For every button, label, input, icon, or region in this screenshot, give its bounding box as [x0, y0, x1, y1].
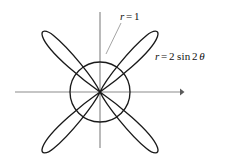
- rose-label-angle: θ: [199, 50, 205, 62]
- circle-label-operator: =: [124, 10, 133, 22]
- circle-label-leader-line: [106, 23, 121, 54]
- label-circle-r-equals-1: r=1: [120, 11, 140, 22]
- polar-plot-canvas: [0, 0, 226, 157]
- rose-label-function: sin: [175, 50, 191, 62]
- label-rose-equation: r=2sin2θ: [155, 51, 205, 62]
- circle-label-value: 1: [134, 10, 140, 22]
- x-axis-arrowhead: [180, 88, 185, 95]
- rose-label-amplitude: 2: [169, 50, 175, 62]
- rose-label-operator: =: [159, 50, 168, 62]
- rose-label-frequency: 2: [191, 50, 200, 62]
- polar-figure: r=1 r=2sin2θ: [0, 0, 226, 157]
- axes-group: [15, 12, 185, 148]
